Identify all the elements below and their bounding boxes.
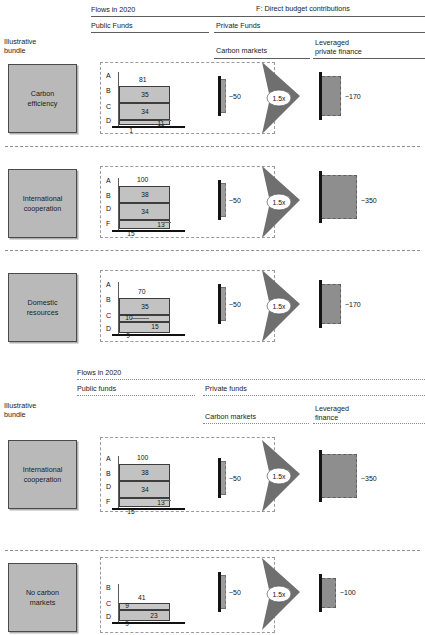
leveraged-finance-bar-4	[319, 450, 357, 502]
stack-value-b-1: 35	[137, 91, 153, 98]
stack-key-b-2: B	[106, 192, 111, 199]
stack-key-b-3: B	[106, 296, 111, 303]
leveraged-finance-bar-3	[319, 280, 341, 328]
public-funds-stack-4: 100 38 34 15 13 A B D F	[118, 444, 190, 516]
multiplier-label-1: 1.5x	[258, 95, 300, 102]
stack-key-d-2: D	[106, 205, 111, 212]
carbon-markets-bar-1	[218, 76, 226, 116]
top-public-label: Public Funds	[91, 21, 133, 30]
stack-baseline-1	[112, 126, 185, 128]
stack-key-d-4: D	[106, 483, 111, 490]
multiplier-arrow-5: 1.5x	[262, 558, 304, 630]
multiplier-label-4: 1.5x	[258, 473, 300, 480]
stack-value-b-2: 38	[137, 191, 153, 198]
stack-tick-side-1	[162, 120, 171, 121]
bottom-bundle-header: Illustrative bundle	[4, 401, 36, 419]
bundle-box-international-cooperation[interactable]: International cooperation	[8, 169, 77, 238]
multiplier-arrow-1: 1.5x	[262, 62, 304, 134]
stack-value-d-4: 34	[137, 486, 153, 493]
bottom-rule-private	[203, 395, 425, 396]
bundle-box-carbon-efficiency[interactable]: Carbon efficiency	[8, 64, 77, 133]
stack-value-c-1: 34	[137, 108, 153, 115]
top-carbon-label: Carbon markets	[216, 46, 267, 55]
bottom-leveraged-label: Leveraged finance	[315, 404, 349, 422]
stack-key-a-2: A	[106, 177, 111, 184]
bottom-rule-public	[77, 395, 195, 396]
leveraged-finance-value-3: ~170	[345, 301, 361, 308]
public-funds-stack-3: 70 35 10 9 15 A B C D	[118, 270, 190, 342]
stack-value-d-5: 9	[121, 620, 133, 627]
top-leveraged-label: Leveraged private finance	[315, 38, 362, 56]
carbon-markets-value-2: ~50	[229, 197, 241, 204]
row-separator-2	[5, 250, 420, 251]
stack-key-a-4: A	[106, 455, 111, 462]
leveraged-bar-fill-2	[322, 175, 357, 219]
bundle-box-no-carbon-markets[interactable]: No carbon markets	[8, 563, 77, 632]
row-separator-1	[5, 146, 420, 147]
stack-value-d-2: 34	[137, 208, 153, 215]
stack-value-b-3: 35	[137, 303, 153, 310]
top-flows-label: Flows in 2020	[91, 5, 135, 14]
stack-key-f-2: F	[106, 220, 110, 227]
carbon-markets-value-4: ~50	[229, 475, 241, 482]
bundle-box-domestic-resources[interactable]: Domestic resources	[8, 273, 77, 342]
stack-value-side-1: 11	[154, 120, 168, 127]
multiplier-label-2: 1.5x	[258, 199, 300, 206]
stack-value-d-3: 9	[122, 332, 134, 339]
stack-value-d-1: 1	[125, 127, 137, 134]
stack-total-label-5: 41	[138, 594, 146, 601]
top-rule-private	[214, 32, 425, 33]
stack-key-a-1: A	[106, 72, 111, 79]
stack-key-b-1: B	[106, 87, 111, 94]
carbon-markets-bar-fill-1	[221, 79, 226, 113]
bottom-rule-leveraged	[313, 423, 425, 424]
stack-total-label-1: 81	[139, 76, 147, 83]
multiplier-label-3: 1.5x	[258, 303, 300, 310]
stack-tick-side-4	[161, 500, 171, 501]
carbon-markets-value-1: ~50	[229, 93, 241, 100]
stack-baseline-4	[112, 508, 185, 510]
stack-value-b-4: 38	[137, 469, 153, 476]
row-separator-4	[5, 550, 420, 551]
top-private-label: Private Funds	[216, 21, 260, 30]
leveraged-finance-bar-1	[319, 72, 341, 120]
stack-total-label-3: 70	[138, 288, 146, 295]
stack-key-d-3: D	[106, 325, 111, 332]
top-rule-carbon	[214, 58, 310, 59]
bottom-private-label: Private funds	[205, 384, 247, 393]
public-funds-stack-1: 81 35 34 1 11 A B C D	[118, 62, 190, 134]
carbon-markets-bar-2	[218, 180, 226, 220]
leveraged-finance-value-4: ~350	[361, 475, 377, 482]
carbon-markets-value-3: ~50	[229, 301, 241, 308]
multiplier-arrow-3: 1.5x	[262, 270, 304, 342]
stack-total-label-2: 100	[137, 176, 148, 183]
bottom-carbon-label: Carbon markets	[205, 412, 256, 421]
stack-value-f-4: 15	[124, 508, 138, 515]
leveraged-finance-bar-5	[319, 574, 336, 612]
stack-value-f-2: 15	[124, 230, 138, 237]
stack-key-a-3: A	[106, 281, 111, 288]
leveraged-bar-fill-3	[322, 284, 341, 324]
stack-key-c-1: C	[106, 103, 111, 110]
stack-key-b-5: B	[106, 584, 111, 591]
stack-total-label-4: 100	[137, 454, 148, 461]
figure-canvas: Flows in 2020 F: Direct budget contribut…	[0, 0, 425, 635]
bottom-rule-carbon	[203, 423, 309, 424]
leveraged-bar-fill-4	[322, 454, 357, 498]
bottom-flows-label: Flows in 2020	[77, 368, 121, 377]
multiplier-label-5: 1.5x	[258, 591, 300, 598]
carbon-markets-bar-fill-4	[221, 461, 226, 495]
stack-value-side-3: 15	[148, 323, 162, 330]
multiplier-arrow-2: 1.5x	[262, 166, 304, 238]
stack-key-f-4: F	[106, 498, 110, 505]
bundle-box-international-cooperation-2[interactable]: International cooperation	[8, 440, 77, 509]
leveraged-finance-value-2: ~350	[361, 197, 377, 204]
top-rule-leveraged	[313, 58, 425, 59]
leveraged-bar-fill-1	[322, 76, 341, 116]
bottom-rule-1	[77, 379, 425, 380]
top-note-label: F: Direct budget contributions	[256, 4, 350, 13]
stack-key-d-5: D	[106, 613, 111, 620]
carbon-markets-value-5: ~50	[229, 589, 241, 596]
carbon-markets-bar-fill-3	[221, 287, 226, 321]
stack-baseline-2	[112, 230, 185, 232]
